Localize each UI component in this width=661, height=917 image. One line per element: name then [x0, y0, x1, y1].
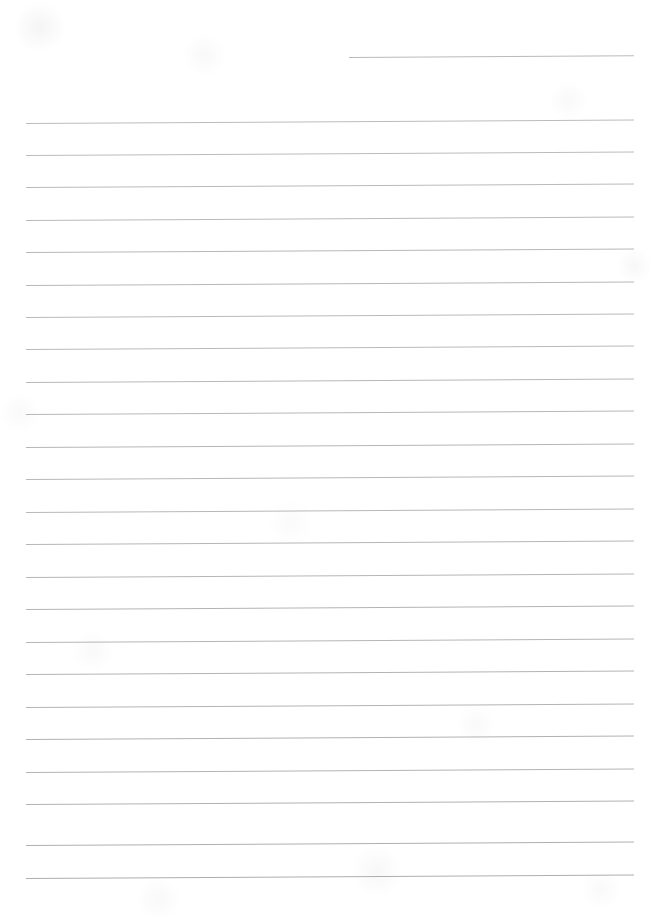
ruled-line — [26, 638, 634, 643]
ruled-line — [26, 151, 634, 156]
ruled-line — [26, 508, 634, 513]
ruled-line — [26, 874, 634, 879]
ruled-line — [26, 800, 634, 805]
ruled-line — [26, 248, 634, 253]
paper-texture — [0, 0, 661, 917]
ruled-line — [26, 703, 634, 708]
ruled-line — [26, 475, 634, 480]
ruled-line — [26, 345, 634, 350]
ruled-line — [26, 768, 634, 773]
ruled-line — [26, 605, 634, 610]
ruled-line — [26, 313, 634, 318]
ruled-line — [26, 841, 634, 846]
ruled-line — [26, 119, 634, 124]
ruled-line — [26, 378, 634, 383]
ruled-line — [26, 540, 634, 545]
ruled-line — [26, 443, 634, 448]
ruled-line — [26, 670, 634, 675]
ruled-line — [26, 735, 634, 740]
ruled-line — [26, 216, 634, 221]
ruled-line — [26, 281, 634, 286]
ruled-line — [26, 183, 634, 188]
ruled-line — [26, 410, 634, 415]
ruled-line — [26, 573, 634, 578]
ruled-line-partial — [349, 55, 634, 58]
scanned-page — [0, 0, 661, 917]
